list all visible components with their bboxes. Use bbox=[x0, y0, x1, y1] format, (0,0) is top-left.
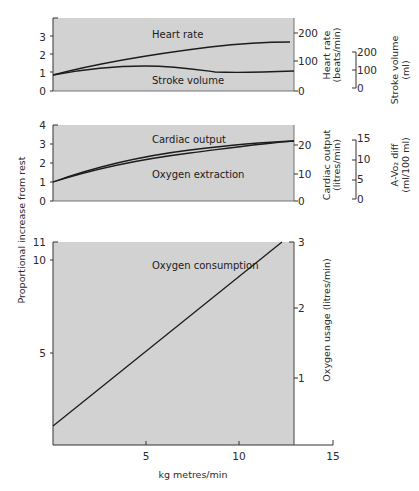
oxygen-extraction-label: Oxygen extraction bbox=[152, 169, 244, 180]
bottom-ytick-5: 5 bbox=[39, 347, 46, 359]
top-panel: 0 1 2 3 200 100 0 Heart rate (beats/min)… bbox=[39, 18, 411, 104]
xtick-15: 15 bbox=[326, 450, 339, 462]
middle-ytick-1: 1 bbox=[39, 176, 46, 188]
top-right2-title-line1: Stroke volume bbox=[389, 36, 400, 105]
top-ytick-1: 1 bbox=[39, 67, 46, 79]
middle-ytick-2: 2 bbox=[39, 157, 46, 169]
middle-ytick-4: 4 bbox=[39, 119, 46, 131]
y-axis-title: Proportional increase from rest bbox=[16, 156, 27, 303]
top-right2-tick-100: 100 bbox=[357, 64, 377, 76]
middle-ytick-3: 3 bbox=[39, 138, 46, 150]
bottom-right-tick-1: 1 bbox=[298, 372, 305, 384]
bottom-plot-area bbox=[53, 242, 294, 445]
middle-right2-tick-5: 5 bbox=[357, 173, 364, 185]
bottom-ytick-11: 11 bbox=[33, 236, 46, 248]
middle-right2-tick-10: 10 bbox=[357, 153, 370, 165]
bottom-right-title: Oxygen usage (litres/min) bbox=[321, 258, 332, 381]
middle-right2-tick-0: 0 bbox=[357, 193, 364, 205]
top-right1-title-line2: (beats/min) bbox=[331, 28, 342, 83]
top-right2-tick-0: 0 bbox=[357, 82, 364, 94]
top-right2-title-line2: (ml) bbox=[400, 60, 411, 79]
middle-right1-tick-20: 20 bbox=[298, 139, 311, 151]
middle-right2-title-line1: A-Vo₂ diff bbox=[389, 143, 400, 186]
bottom-ytick-10: 10 bbox=[33, 254, 46, 266]
middle-right1-tick-0: 0 bbox=[298, 195, 305, 207]
top-ytick-2: 2 bbox=[39, 49, 46, 61]
middle-right1-tick-10: 10 bbox=[298, 168, 311, 180]
bottom-panel: 11 10 5 5 10 15 kg metres/min 3 2 1 Oxyg… bbox=[33, 236, 340, 480]
heart-rate-label: Heart rate bbox=[152, 29, 203, 40]
stroke-volume-label: Stroke volume bbox=[152, 75, 224, 86]
top-right2-tick-200: 200 bbox=[357, 46, 377, 58]
figure-canvas: 0 1 2 3 200 100 0 Heart rate (beats/min)… bbox=[0, 0, 419, 491]
middle-panel: 0 1 2 3 4 20 10 0 Cardiac output (litres… bbox=[39, 119, 411, 207]
bottom-right-tick-3: 3 bbox=[298, 236, 305, 248]
top-ytick-3: 3 bbox=[39, 31, 46, 43]
x-axis-title: kg metres/min bbox=[159, 469, 228, 480]
middle-right2-tick-15: 15 bbox=[357, 132, 370, 144]
cardiac-output-label: Cardiac output bbox=[152, 134, 226, 145]
top-right1-tick-200: 200 bbox=[298, 27, 318, 39]
middle-ytick-0: 0 bbox=[39, 195, 46, 207]
top-right1-tick-100: 100 bbox=[298, 55, 318, 67]
middle-right2-title-line2: (ml/100 ml) bbox=[400, 137, 411, 193]
xtick-10: 10 bbox=[232, 450, 245, 462]
xtick-5: 5 bbox=[143, 450, 150, 462]
oxygen-consumption-label: Oxygen consumption bbox=[152, 260, 258, 271]
top-ytick-0: 0 bbox=[39, 85, 46, 97]
middle-right1-title-line2: (litres/min) bbox=[331, 139, 342, 191]
top-right1-tick-0: 0 bbox=[298, 85, 305, 97]
bottom-right-tick-2: 2 bbox=[298, 302, 305, 314]
